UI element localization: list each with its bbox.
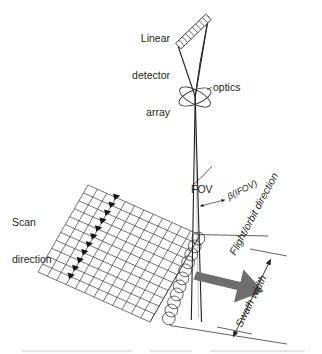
detector-array-label-line2: detector (100, 69, 170, 81)
ifov-leader (201, 200, 225, 206)
optics-label: optics (213, 81, 240, 93)
scan-direction-label-line2: direction (12, 253, 52, 265)
linear-detector-array-label: Linear detector array (100, 7, 170, 143)
scanner-geometry-figure: Linear detector array optics Scan direct… (0, 0, 322, 354)
scan-direction-label: Scan direction (12, 191, 52, 290)
scan-direction-label-line1: Scan (12, 216, 52, 228)
cropped-caption-strip (22, 350, 305, 352)
detector-array-label-line1: Linear (100, 32, 170, 44)
fov-label: FOV (191, 183, 213, 195)
detector-array-label-line3: array (100, 106, 170, 118)
